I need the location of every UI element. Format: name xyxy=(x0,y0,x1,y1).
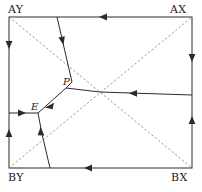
arrow-branch-lower xyxy=(38,127,45,136)
node-label-e: E xyxy=(31,101,38,112)
edge-P-to-right-boundary xyxy=(66,88,192,95)
arrow-right-edge-lower xyxy=(189,116,196,124)
arrow-top-edge xyxy=(99,14,107,21)
arrow-bottom-edge xyxy=(84,165,92,172)
arrow-branch-top xyxy=(58,36,64,45)
node-label-p: P xyxy=(63,76,70,87)
corner-label-ax: AX xyxy=(170,3,186,16)
corner-label-by: BY xyxy=(8,171,24,184)
edge-E-to-bottom-boundary xyxy=(38,113,50,168)
arrow-right-edge-upper xyxy=(189,54,196,62)
corner-label-bx: BX xyxy=(171,171,188,184)
figure-container: AY AX BY BX P E xyxy=(0,0,202,192)
edge-P-to-E xyxy=(38,88,66,113)
arrow-branch-left xyxy=(18,110,26,117)
arrow-branch-right xyxy=(129,90,137,97)
corner-label-ay: AY xyxy=(8,3,23,16)
diagram-canvas xyxy=(0,0,202,192)
arrow-left-edge-lower xyxy=(6,129,13,137)
arrow-left-edge-upper xyxy=(6,41,13,49)
